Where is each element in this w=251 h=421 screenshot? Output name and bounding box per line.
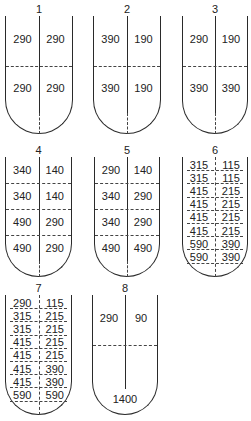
cell-value: 415 <box>6 362 39 376</box>
cell-value: 290 <box>39 242 72 254</box>
center-dash <box>39 113 40 134</box>
section-divider <box>183 66 247 67</box>
cell-value: 315 <box>183 158 215 172</box>
cell-value: 290 <box>6 82 39 94</box>
cell-value: 190 <box>127 82 160 94</box>
cell-value: 490 <box>95 242 127 254</box>
cell-value: 290 <box>127 216 159 228</box>
test-tube: 3151153151154152154152154152154152155903… <box>182 157 248 277</box>
center-dash <box>215 113 216 134</box>
tube-number-label: 3 <box>205 3 225 15</box>
section-divider <box>6 183 71 184</box>
cell-value: 390 <box>215 250 247 264</box>
tube-number-label: 2 <box>117 3 137 15</box>
cell-value: 590 <box>39 388 72 402</box>
center-dash <box>39 261 40 277</box>
cell-value: 390 <box>215 237 247 251</box>
cell-value: 340 <box>95 216 127 228</box>
cell-value: 590 <box>6 388 39 402</box>
cell-value: 290 <box>183 33 215 45</box>
cell-value: 415 <box>6 375 39 389</box>
tube-number-label: 1 <box>29 3 49 15</box>
test-tube: 340140340140490290490290 <box>5 157 72 277</box>
cell-value: 290 <box>39 82 72 94</box>
center-divider <box>127 16 128 113</box>
cell-value: 340 <box>6 190 39 202</box>
section-divider <box>95 209 159 210</box>
section-divider <box>94 66 160 67</box>
cell-value: 115 <box>39 296 72 310</box>
tube-number-label: 5 <box>117 144 137 156</box>
cell-value: 415 <box>183 224 215 238</box>
cell-value: 590 <box>183 237 215 251</box>
cell-value: 215 <box>215 197 247 211</box>
section-divider <box>6 209 71 210</box>
cell-value: 290 <box>93 312 125 324</box>
cell-value: 290 <box>39 216 72 228</box>
test-tube: 290290290290 <box>5 16 73 134</box>
cell-value: 390 <box>39 362 72 376</box>
cell-value: 215 <box>39 348 72 362</box>
cell-value: 215 <box>215 224 247 238</box>
cell-value: 415 <box>6 348 39 362</box>
cell-value: 390 <box>39 375 72 389</box>
section-divider <box>6 235 71 236</box>
cell-value: 415 <box>6 335 39 349</box>
cell-value: 215 <box>215 210 247 224</box>
section-divider <box>6 66 72 67</box>
cell-value: 140 <box>39 190 72 202</box>
cell-value: 190 <box>127 33 160 45</box>
cell-value: 340 <box>6 164 39 176</box>
cell-value: 140 <box>127 164 159 176</box>
cell-value: 315 <box>6 309 39 323</box>
cell-value: 415 <box>183 184 215 198</box>
section-divider <box>95 235 159 236</box>
cell-value: 215 <box>39 322 72 336</box>
cell-value: 290 <box>6 296 39 310</box>
tube-number-label: 4 <box>29 144 49 156</box>
test-tube: 290190390390 <box>182 16 248 134</box>
cell-value: 215 <box>39 309 72 323</box>
test-tube: 390190390190 <box>93 16 161 134</box>
center-divider <box>215 16 216 113</box>
cell-value: 115 <box>215 171 247 185</box>
cell-value: 215 <box>39 335 72 349</box>
tube-number-label: 8 <box>115 282 135 294</box>
cell-value: 415 <box>183 210 215 224</box>
cell-value: 590 <box>183 250 215 264</box>
center-dash <box>127 261 128 277</box>
cell-value: 290 <box>39 33 72 45</box>
test-tube: 2901153152153152154152154152154153904153… <box>5 295 72 415</box>
cell-value: 290 <box>6 33 39 45</box>
test-tube: 290901400 <box>92 295 158 415</box>
cell-value: 415 <box>183 197 215 211</box>
bottom-value: 1400 <box>109 393 141 405</box>
cell-value: 90 <box>125 312 157 324</box>
section-divider <box>93 345 157 346</box>
tube-number-label: 7 <box>29 282 49 294</box>
cell-value: 490 <box>127 242 159 254</box>
test-tube: 290140340290340290490490 <box>94 157 160 277</box>
cell-value: 390 <box>94 82 127 94</box>
center-divider <box>125 295 126 389</box>
cell-value: 340 <box>95 190 127 202</box>
cell-value: 390 <box>183 82 215 94</box>
cell-value: 215 <box>215 184 247 198</box>
section-divider <box>95 183 159 184</box>
center-divider <box>39 16 40 113</box>
cell-value: 315 <box>183 171 215 185</box>
cell-value: 140 <box>39 164 72 176</box>
cell-value: 390 <box>215 82 247 94</box>
cell-value: 490 <box>6 242 39 254</box>
cell-value: 290 <box>127 190 159 202</box>
cell-value: 115 <box>215 158 247 172</box>
cell-value: 315 <box>6 322 39 336</box>
tube-number-label: 6 <box>205 144 225 156</box>
cell-value: 390 <box>94 33 127 45</box>
center-dash <box>127 113 128 134</box>
cell-value: 190 <box>215 33 247 45</box>
cell-value: 290 <box>95 164 127 176</box>
cell-value: 490 <box>6 216 39 228</box>
